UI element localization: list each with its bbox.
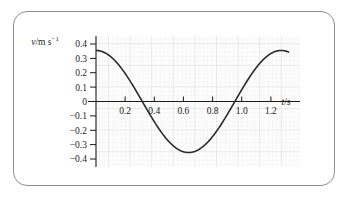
x-tick-label-3: 0.8: [207, 106, 219, 116]
y-axis-title-exponent: −1: [52, 35, 60, 43]
figure-container: 0.4 0.3 0.2 0.1 0 −0.1 −0.2 −0.3 −0.4 0.…: [0, 0, 349, 199]
x-tick-label-4: 1.0: [236, 106, 248, 116]
y-tick-label-6: −0.2: [70, 126, 87, 136]
y-tick-label-7: −0.3: [70, 140, 87, 150]
y-tick-label-8: −0.4: [70, 154, 87, 164]
y-tick-label-2: 0.2: [75, 68, 87, 78]
y-axis-tick-labels: 0.4 0.3 0.2 0.1 0 −0.1 −0.2 −0.3 −0.4: [70, 39, 87, 164]
x-axis-title: t/s: [282, 97, 291, 107]
y-axis-ticks: [90, 44, 96, 159]
y-axis-title: v/m s−1: [31, 35, 59, 47]
y-axis-title-unit: /m s: [35, 37, 51, 47]
y-tick-label-4: 0: [82, 97, 87, 107]
x-axis-title-unit: /s: [284, 97, 291, 107]
x-tick-label-5: 1.2: [265, 106, 277, 116]
x-tick-label-0: 0.2: [119, 106, 131, 116]
velocity-time-graph: 0.4 0.3 0.2 0.1 0 −0.1 −0.2 −0.3 −0.4 0.…: [0, 0, 349, 199]
x-tick-label-2: 0.6: [177, 106, 189, 116]
y-tick-label-0: 0.4: [75, 39, 87, 49]
y-tick-label-1: 0.3: [75, 54, 87, 64]
y-tick-label-5: −0.1: [70, 111, 87, 121]
y-tick-label-3: 0.1: [75, 83, 87, 93]
